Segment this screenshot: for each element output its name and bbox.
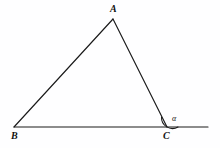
- angle-label-alpha: α: [172, 115, 176, 123]
- geometry-figure: A B C α: [0, 0, 220, 148]
- vertex-label-b: B: [11, 131, 18, 141]
- vertex-label-a: A: [110, 4, 117, 14]
- segment-ab: [14, 19, 113, 127]
- triangle-diagram-canvas: [0, 0, 220, 148]
- segment-ac: [113, 19, 167, 127]
- vertex-label-c: C: [163, 131, 170, 141]
